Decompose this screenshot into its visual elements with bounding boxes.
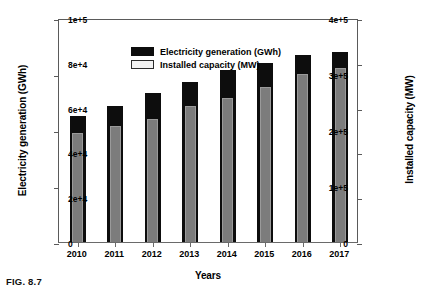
figure-caption: FIG. 8.7 [6, 276, 42, 287]
x-tick-label-2016: 2016 [292, 249, 312, 259]
y-right-tick-label-6e+4: 6e+4 [68, 105, 87, 115]
x-tick-2016 [303, 242, 304, 247]
bar-installed-capacity-2017 [335, 68, 346, 242]
y-left-tick-label-2e+5: 2e+5 [329, 127, 348, 137]
x-tick-label-2017: 2017 [329, 249, 349, 259]
x-tick-2011 [115, 242, 116, 247]
x-tick-2015 [265, 242, 266, 247]
figure-container: Electricity generation (GWh) Installed c… [0, 0, 431, 297]
y-left-tick-label-4e+5: 4e+5 [329, 15, 348, 25]
x-tick-label-2015: 2015 [254, 249, 274, 259]
x-tick-label-2013: 2013 [179, 249, 199, 259]
bar-installed-capacity-2012 [147, 119, 158, 242]
x-tick-label-2014: 2014 [217, 249, 237, 259]
x-tick-label-2012: 2012 [142, 249, 162, 259]
bar-installed-capacity-2011 [110, 126, 121, 242]
legend: Electricity generation (GWh) Installed c… [131, 46, 281, 72]
x-tick-label-2010: 2010 [67, 249, 87, 259]
y-right-tick-label-1e+5: 1e+5 [68, 15, 87, 25]
y-right-tick-label-4e+4: 4e+4 [68, 149, 87, 159]
y-left-tick-2e+5 [54, 132, 59, 133]
y-right-tick-6e+4 [357, 110, 362, 111]
x-tick-2013 [190, 242, 191, 247]
x-tick-label-2011: 2011 [104, 249, 124, 259]
y-right-tick-0 [357, 244, 362, 245]
legend-label-electricity-generation: Electricity generation (GWh) [160, 47, 281, 57]
y-right-tick-2e+4 [357, 199, 362, 200]
y-axis-left-title: Electricity generation (GWh) [17, 41, 28, 221]
bar-installed-capacity-2014 [222, 98, 233, 242]
plot-area: 01e+52e+53e+54e+5 02e+44e+46e+48e+41e+5 … [58, 19, 358, 243]
y-left-tick-label-3e+5: 3e+5 [329, 71, 348, 81]
y-right-tick-label-2e+4: 2e+4 [68, 194, 87, 204]
x-tick-2014 [228, 242, 229, 247]
bar-installed-capacity-2016 [297, 74, 308, 242]
y-right-tick-1e+5 [357, 20, 362, 21]
y-left-tick-1e+5 [54, 188, 59, 189]
x-tick-2012 [153, 242, 154, 247]
y-left-tick-4e+5 [54, 20, 59, 21]
bar-installed-capacity-2013 [185, 106, 196, 242]
x-tick-2010 [78, 242, 79, 247]
y-right-tick-8e+4 [357, 65, 362, 66]
legend-label-installed-capacity: Installed capacity (MW) [160, 60, 260, 70]
x-tick-2017 [340, 242, 341, 247]
legend-swatch-icon-electricity-generation [131, 47, 154, 56]
legend-item-electricity-generation: Electricity generation (GWh) [131, 46, 281, 57]
y-right-tick-label-8e+4: 8e+4 [68, 60, 87, 70]
bar-installed-capacity-2015 [260, 87, 271, 242]
y-left-tick-label-1e+5: 1e+5 [329, 183, 348, 193]
y-left-tick-label-0: 0 [343, 239, 348, 249]
y-axis-right-title: Installed capacity (MW) [404, 40, 415, 220]
x-axis-title: Years [58, 270, 358, 281]
y-left-tick-3e+5 [54, 76, 59, 77]
legend-item-installed-capacity: Installed capacity (MW) [131, 59, 281, 70]
legend-swatch-icon-installed-capacity [131, 60, 154, 69]
y-right-tick-4e+4 [357, 154, 362, 155]
y-right-tick-label-0: 0 [68, 239, 73, 249]
y-left-tick-0 [54, 244, 59, 245]
